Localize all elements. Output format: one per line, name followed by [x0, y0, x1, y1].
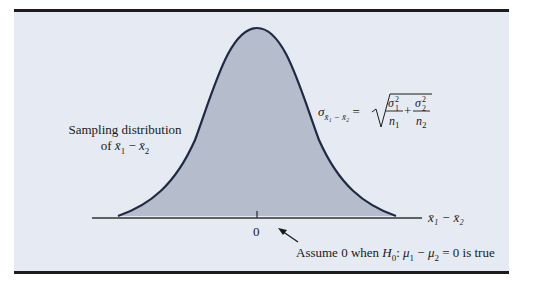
std-error-formula-lhs: σx̄₁ − x̄₂ = — [318, 104, 360, 125]
formula-plus: + — [404, 103, 411, 119]
x-axis-tick-zero: 0 — [253, 224, 260, 240]
formula-term2-numerator: σ22 — [415, 95, 427, 111]
formula-term2-denominator: n2 — [416, 113, 427, 133]
null-hypothesis-annotation: Assume 0 when H0: μ1 − μ2 = 0 is true — [296, 245, 495, 266]
formula-term1-numerator: σ21 — [388, 95, 400, 111]
sampling-distribution-label: Sampling distribution of x̄1 − x̄2 — [65, 122, 185, 159]
formula-term1-denominator: n1 — [389, 113, 400, 133]
x-axis-variable-label: x̄₁ − x̄₂ — [428, 210, 464, 226]
sampling-distribution-line1: Sampling distribution — [65, 122, 185, 138]
sampling-distribution-line2: of x̄1 − x̄2 — [65, 138, 185, 159]
